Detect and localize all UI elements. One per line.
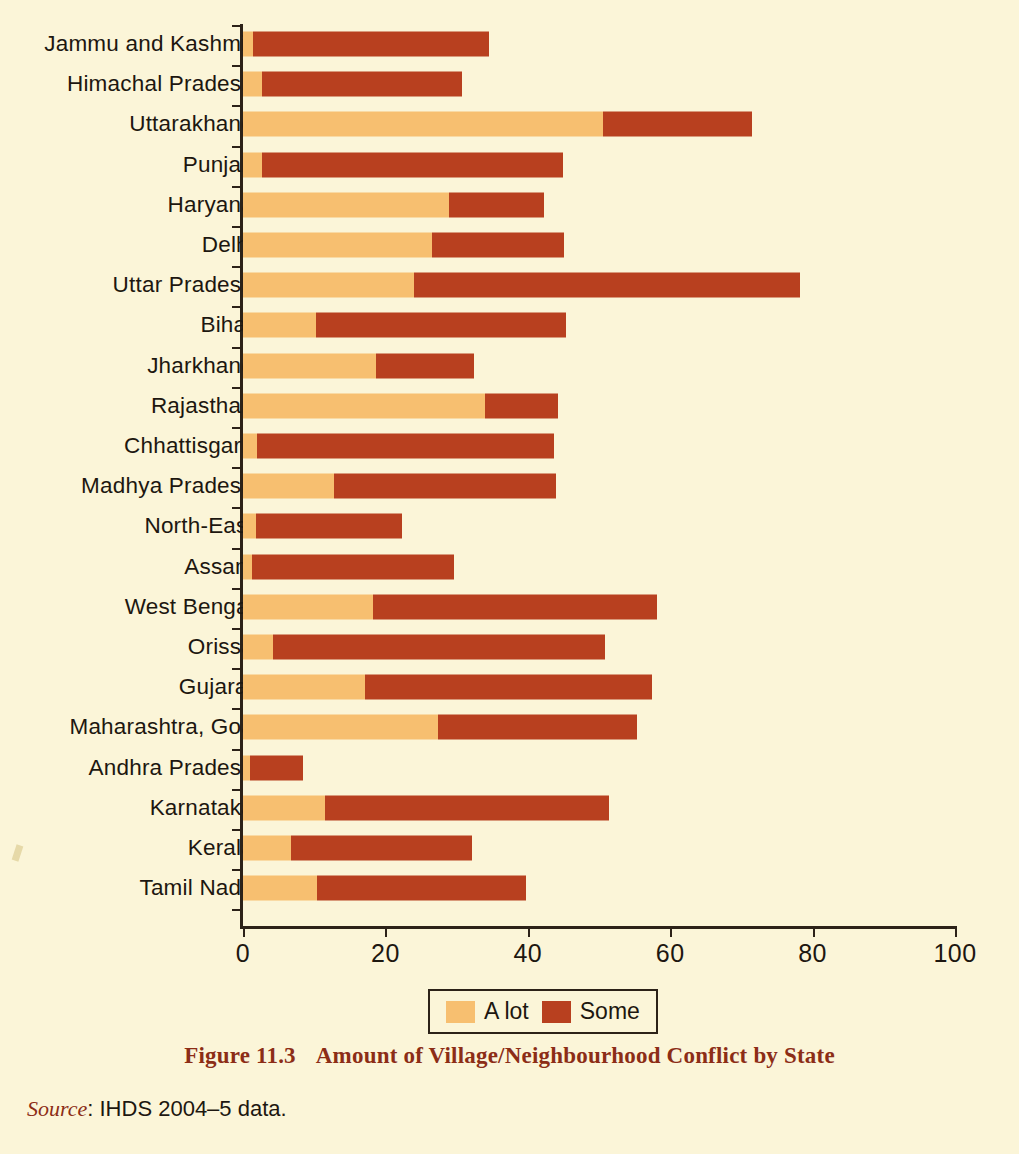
bar-row: West Bengal xyxy=(0,587,1019,627)
x-tick-label: 40 xyxy=(513,939,542,968)
bar-segment-some xyxy=(257,434,554,459)
x-tick-mark xyxy=(813,926,815,937)
chart-legend: A lot Some xyxy=(428,989,658,1034)
bar-row: Uttar Pradesh xyxy=(0,265,1019,305)
figure-container: 020406080100 Jammu and KashmirHimachal P… xyxy=(0,0,1019,1154)
bar-row: Kerala xyxy=(0,828,1019,868)
bar-segment-some xyxy=(334,474,556,499)
bar-segment-some xyxy=(432,233,564,258)
stacked-bar xyxy=(243,514,402,539)
bar-segment-some xyxy=(262,72,463,97)
bar-segment-a-lot xyxy=(243,313,316,338)
category-label: Haryana xyxy=(168,192,254,218)
figure-caption: Figure 11.3Amount of Village/Neighbourho… xyxy=(0,1043,1019,1069)
stacked-bar xyxy=(243,594,657,619)
category-label: North-East xyxy=(144,513,254,539)
x-tick-mark xyxy=(385,926,387,937)
bar-segment-a-lot xyxy=(243,836,291,861)
category-label: Uttarakhand xyxy=(129,111,254,137)
stacked-bar xyxy=(243,72,462,97)
x-tick-mark xyxy=(955,926,957,937)
bar-row: Madhya Pradesh xyxy=(0,466,1019,506)
stacked-bar xyxy=(243,32,489,57)
bar-segment-some xyxy=(291,836,472,861)
stacked-bar xyxy=(243,755,303,780)
bar-row: North-East xyxy=(0,506,1019,546)
x-axis-line xyxy=(240,926,956,929)
stacked-bar xyxy=(243,715,637,740)
x-tick-mark xyxy=(243,926,245,937)
bar-segment-a-lot xyxy=(243,112,603,137)
bar-segment-some xyxy=(250,755,303,780)
stacked-bar xyxy=(243,434,554,459)
bar-segment-some xyxy=(273,635,605,660)
bar-segment-some xyxy=(317,876,526,901)
category-label: Karnataka xyxy=(150,795,254,821)
bar-segment-some xyxy=(252,554,455,579)
bar-segment-a-lot xyxy=(243,273,414,298)
bar-row: Andhra Pradesh xyxy=(0,748,1019,788)
bar-segment-some xyxy=(438,715,637,740)
legend-label-a-lot: A lot xyxy=(484,998,529,1025)
bar-row: Himachal Pradesh xyxy=(0,64,1019,104)
stacked-bar xyxy=(243,192,544,217)
stacked-bar xyxy=(243,836,472,861)
bar-segment-a-lot xyxy=(243,755,250,780)
bar-row: Rajasthan xyxy=(0,386,1019,426)
bar-segment-a-lot xyxy=(243,594,373,619)
bar-segment-a-lot xyxy=(243,434,257,459)
bar-segment-some xyxy=(365,675,652,700)
bar-segment-some xyxy=(449,192,544,217)
category-label: Andhra Pradesh xyxy=(89,755,254,781)
x-tick-label: 60 xyxy=(656,939,685,968)
x-tick-label: 80 xyxy=(798,939,827,968)
bar-segment-a-lot xyxy=(243,192,449,217)
stacked-bar xyxy=(243,313,566,338)
bar-row: Delhi xyxy=(0,225,1019,265)
bar-segment-a-lot xyxy=(243,72,262,97)
category-label: Maharashtra, Goa xyxy=(69,714,254,740)
category-label: Uttar Pradesh xyxy=(113,272,254,298)
bar-segment-a-lot xyxy=(243,876,317,901)
y-tick-mark xyxy=(232,909,243,911)
legend-item-some: Some xyxy=(542,998,640,1025)
source-note: Source: IHDS 2004–5 data. xyxy=(27,1096,287,1122)
bar-row: Chhattisgarh xyxy=(0,426,1019,466)
bar-row: Jharkhand xyxy=(0,346,1019,386)
x-tick-label: 100 xyxy=(933,939,976,968)
stacked-bar xyxy=(243,353,474,378)
bar-segment-a-lot xyxy=(243,474,334,499)
legend-item-a-lot: A lot xyxy=(446,998,529,1025)
bar-row: Haryana xyxy=(0,185,1019,225)
bar-segment-some xyxy=(485,393,558,418)
stacked-bar xyxy=(243,876,526,901)
category-label: Tamil Nadu xyxy=(139,875,254,901)
category-label: Jammu and Kashmir xyxy=(44,31,254,57)
bar-row: Tamil Nadu xyxy=(0,868,1019,908)
bar-segment-some xyxy=(373,594,657,619)
stacked-bar xyxy=(243,393,558,418)
bar-segment-some xyxy=(376,353,474,378)
bar-row: Bihar xyxy=(0,305,1019,345)
category-label: West Bengal xyxy=(125,594,254,620)
stacked-bar xyxy=(243,273,800,298)
bar-segment-a-lot xyxy=(243,32,253,57)
plot-area: 020406080100 Jammu and KashmirHimachal P… xyxy=(0,0,1019,930)
bar-row: Uttarakhand xyxy=(0,104,1019,144)
legend-label-some: Some xyxy=(580,998,640,1025)
bar-segment-some xyxy=(253,32,489,57)
category-label: Chhattisgarh xyxy=(124,433,254,459)
stacked-bar xyxy=(243,554,454,579)
bar-segment-a-lot xyxy=(243,514,256,539)
figure-number: Figure 11.3 xyxy=(184,1043,296,1068)
category-label: Himachal Pradesh xyxy=(67,71,254,97)
legend-swatch-a-lot-icon xyxy=(446,1001,475,1023)
stacked-bar xyxy=(243,152,563,177)
bar-segment-some xyxy=(603,112,753,137)
bar-row: Orissa xyxy=(0,627,1019,667)
bar-row: Maharashtra, Goa xyxy=(0,707,1019,747)
bar-row: Assam xyxy=(0,547,1019,587)
bar-segment-a-lot xyxy=(243,353,376,378)
stacked-bar xyxy=(243,635,605,660)
x-tick-label: 20 xyxy=(371,939,400,968)
